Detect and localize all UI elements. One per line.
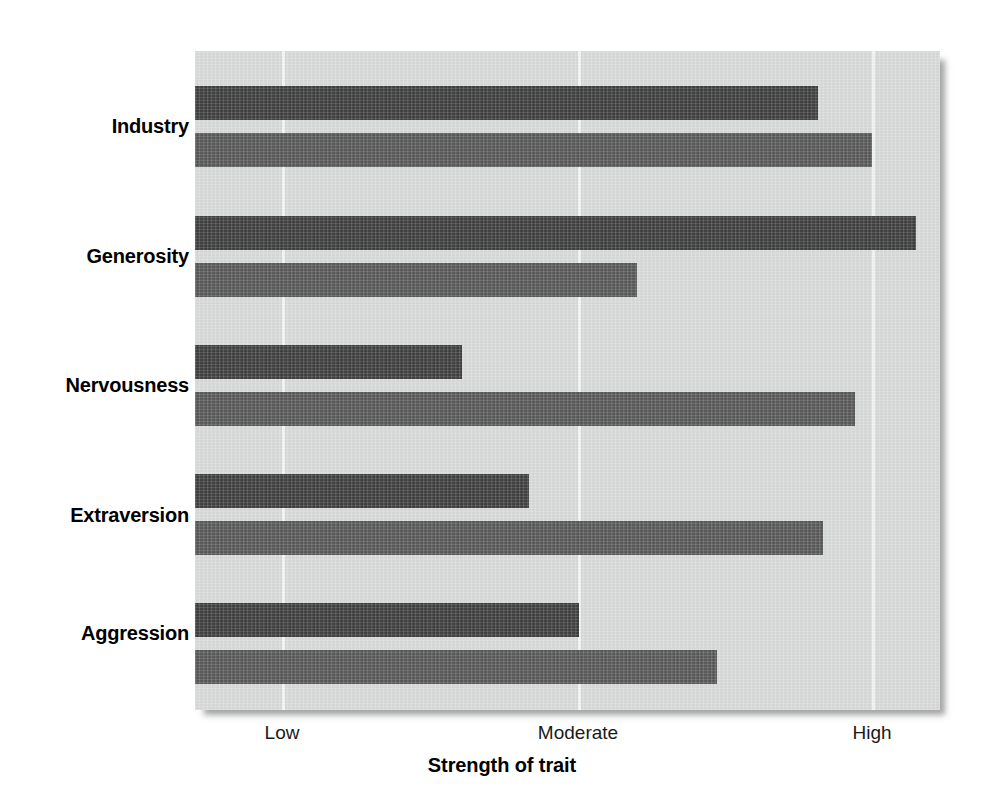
category-axis-labels: Industry Generosity Nervousness Extraver… (0, 0, 189, 803)
bar-texture (195, 345, 462, 379)
category-label-generosity: Generosity (3, 245, 189, 268)
bar-texture (195, 603, 579, 637)
plot-area (195, 51, 940, 710)
x-axis-title: Strength of trait (0, 754, 1004, 777)
bar-nervousness-light[interactable] (195, 392, 855, 426)
bar-industry-dark[interactable] (195, 86, 818, 120)
bar-extraversion-dark[interactable] (195, 474, 529, 508)
category-label-nervousness: Nervousness (3, 374, 189, 397)
bar-extraversion-light[interactable] (195, 521, 823, 555)
bar-generosity-dark[interactable] (195, 216, 916, 250)
category-label-industry: Industry (3, 115, 189, 138)
gridline-high (872, 51, 875, 710)
bar-texture (195, 216, 916, 250)
bar-texture (195, 392, 855, 426)
x-tick-label-low: Low (265, 722, 300, 744)
bar-aggression-dark[interactable] (195, 603, 579, 637)
bar-texture (195, 521, 823, 555)
bar-texture (195, 133, 872, 167)
x-axis-title-text: Strength of trait (428, 754, 576, 776)
bar-industry-light[interactable] (195, 133, 872, 167)
bar-texture (195, 474, 529, 508)
category-label-aggression: Aggression (3, 622, 189, 645)
bar-texture (195, 650, 717, 684)
x-tick-label-high: High (852, 722, 891, 744)
bar-nervousness-dark[interactable] (195, 345, 462, 379)
category-label-extraversion: Extraversion (3, 504, 189, 527)
bar-texture (195, 263, 637, 297)
x-tick-label-moderate: Moderate (538, 722, 618, 744)
bar-aggression-light[interactable] (195, 650, 717, 684)
bar-texture (195, 86, 818, 120)
bar-generosity-light[interactable] (195, 263, 637, 297)
bar-chart-figure: Industry Generosity Nervousness Extraver… (0, 0, 1004, 803)
